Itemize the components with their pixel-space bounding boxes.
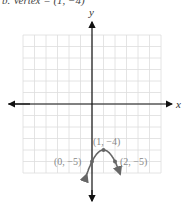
vertex-point [102, 148, 106, 152]
left-point-label: (0, −5) [54, 156, 81, 168]
coordinate-plane: x y (1, −4) (0, −5) (2, −5) [0, 0, 189, 204]
vertex-label: (1, −4) [93, 136, 120, 148]
y-axis-label: y [88, 6, 94, 18]
right-point-label: (2, −5) [120, 156, 147, 168]
left-point [90, 160, 94, 164]
x-axis-label: x [175, 98, 181, 110]
right-point [113, 160, 117, 164]
